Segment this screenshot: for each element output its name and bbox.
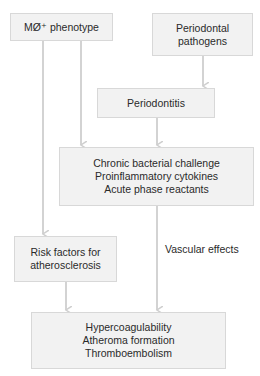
node-outcomes: Hypercoagulability Atheroma formation Th… <box>31 312 226 369</box>
node-periodontitis: Periodontitis <box>97 88 215 118</box>
node-periodontal-pathogens: Periodontal pathogens <box>152 13 253 56</box>
node-text: Thromboembolism <box>82 347 174 360</box>
node-text: Acute phase reactants <box>93 183 220 196</box>
node-text: Risk factors for <box>30 246 101 259</box>
node-chronic-challenge: Chronic bacterial challenge Proinflammat… <box>59 147 254 206</box>
node-text: Periodontitis <box>127 97 185 110</box>
node-text: MØ⁺ phenotype <box>24 21 99 34</box>
node-text: Periodontal <box>176 22 229 35</box>
node-text: Chronic bacterial challenge <box>93 157 220 170</box>
node-text: atherosclerosis <box>30 259 101 272</box>
edge-label-vascular-effects: Vascular effects <box>165 243 239 256</box>
node-text: Hypercoagulability <box>82 321 174 334</box>
node-text: Atheroma formation <box>82 334 174 347</box>
node-risk-factors: Risk factors for atherosclerosis <box>14 236 117 282</box>
node-text: pathogens <box>176 35 229 48</box>
node-text: Proinflammatory cytokines <box>93 170 220 183</box>
node-macrophage-phenotype: MØ⁺ phenotype <box>10 13 113 41</box>
